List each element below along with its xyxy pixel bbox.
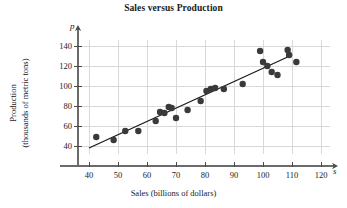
y-axis-variable: p — [70, 21, 75, 31]
data-point — [274, 72, 280, 78]
grid-lines — [78, 40, 330, 154]
data-point — [269, 69, 275, 75]
regression-line — [89, 55, 292, 148]
x-tick-label: 120 — [315, 170, 328, 180]
x-tick-label: 70 — [172, 170, 181, 180]
x-tick-label: 80 — [201, 170, 210, 180]
x-axis-variable: s — [333, 166, 337, 176]
x-tick-label: 100 — [257, 170, 270, 180]
data-point — [221, 86, 227, 92]
x-tick-label: 60 — [143, 170, 152, 180]
data-point — [197, 98, 203, 104]
y-tick-label: 80 — [48, 101, 72, 111]
data-point — [135, 128, 141, 134]
data-point — [110, 137, 116, 143]
x-tick-label: 90 — [230, 170, 239, 180]
data-point — [240, 81, 246, 87]
y-tick-label: 100 — [48, 81, 72, 91]
data-points — [93, 47, 299, 143]
data-point — [286, 52, 292, 58]
trend-line — [89, 55, 292, 148]
x-tick-label: 40 — [85, 170, 94, 180]
y-tick-label: 40 — [48, 141, 72, 151]
data-point — [264, 63, 270, 69]
y-tick-label: 140 — [48, 41, 72, 51]
data-point — [122, 128, 128, 134]
data-point — [93, 134, 99, 140]
data-point — [173, 115, 179, 121]
data-point — [168, 105, 174, 111]
y-tick-label: 60 — [48, 121, 72, 131]
x-tick-label: 110 — [286, 170, 298, 180]
y-tick-label: 120 — [48, 61, 72, 71]
x-tick-label: 50 — [114, 170, 123, 180]
scatter-chart-figure: Sales versus Production Production (thou… — [0, 0, 347, 208]
data-point — [161, 110, 167, 116]
data-point — [153, 118, 159, 124]
data-point — [212, 85, 218, 91]
data-point — [293, 59, 299, 65]
data-point — [184, 107, 190, 113]
data-point — [257, 48, 263, 54]
